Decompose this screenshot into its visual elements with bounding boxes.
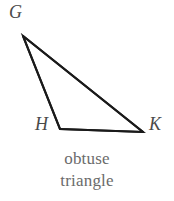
triangle-edge-HK — [60, 129, 143, 132]
figure-caption: obtuse triangle — [0, 148, 174, 192]
caption-line-1: obtuse — [0, 148, 174, 170]
vertex-label-h: H — [35, 115, 48, 133]
caption-line-2: triangle — [0, 170, 174, 192]
vertex-label-k: K — [149, 115, 161, 133]
vertex-label-g: G — [9, 3, 22, 21]
figure-container: G H K obtuse triangle — [0, 0, 174, 201]
